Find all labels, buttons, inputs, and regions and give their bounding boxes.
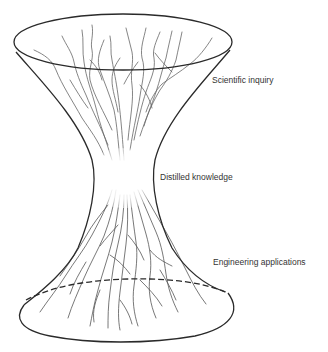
- neck-fade: [85, 148, 161, 208]
- left-side-curve: [16, 52, 94, 305]
- bottom-ellipse-front: [20, 293, 234, 342]
- label-scientific-inquiry: Scientific inquiry: [212, 75, 273, 85]
- right-side-curve: [154, 50, 230, 292]
- label-engineering-applications: Engineering applications: [213, 257, 306, 267]
- branches-top: [34, 25, 212, 160]
- label-distilled-knowledge: Distilled knowledge: [160, 172, 233, 182]
- top-ellipse: [14, 14, 232, 70]
